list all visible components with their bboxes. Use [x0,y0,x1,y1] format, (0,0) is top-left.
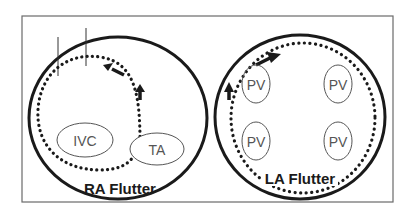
pv-upper-right-label: PV [329,77,348,93]
pv-upper-left-label: PV [247,77,266,93]
ra-flutter-title: RA Flutter [84,180,156,197]
ta-label: TA [149,142,167,158]
ivc-label: IVC [73,133,96,149]
la-flutter-title: LA Flutter [265,170,335,187]
flutter-diagram: IVC TA RA Flutter PV PV PV PV LA Flutter [0,0,415,212]
pv-lower-right-label: PV [329,134,348,150]
pv-lower-left-label: PV [247,134,266,150]
